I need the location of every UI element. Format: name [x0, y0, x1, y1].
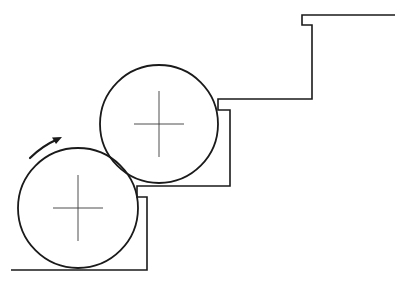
- roller-step-diagram: [0, 0, 410, 286]
- rotation-arrow-arc: [30, 139, 58, 158]
- lower-roller: [18, 148, 138, 268]
- stepped-profile: [11, 15, 395, 270]
- upper-roller: [100, 65, 218, 183]
- rotation-arrow-icon: [30, 137, 62, 158]
